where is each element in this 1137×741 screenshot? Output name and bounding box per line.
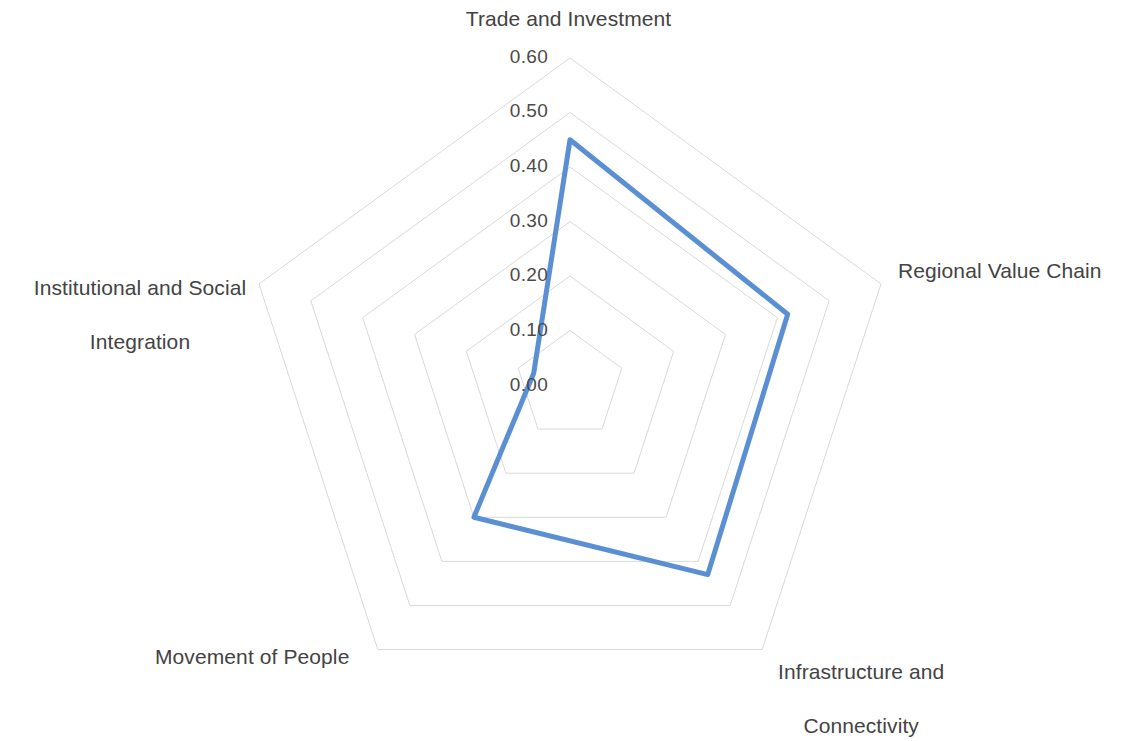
radial-tick-0-10: 0.10 <box>458 319 548 341</box>
radial-tick-0-50: 0.50 <box>458 100 548 122</box>
axis-label-institutional-and-social-integration: Institutional and Social Integration <box>0 248 280 382</box>
radial-tick-0-00: 0.00 <box>458 374 548 396</box>
axis-label-institutional-line2: Integration <box>0 329 280 356</box>
radial-tick-0-20: 0.20 <box>458 264 548 286</box>
radial-tick-0-30: 0.30 <box>458 210 548 232</box>
grid-ring-0-40 <box>363 167 778 561</box>
axis-label-movement-of-people: Movement of People <box>155 644 349 671</box>
axis-label-infrastructure-line2: Connectivity <box>778 713 944 740</box>
axis-label-regional-value-chain: Regional Value Chain <box>898 258 1102 285</box>
axis-label-trade-and-investment: Trade and Investment <box>0 6 1137 33</box>
radial-tick-0-40: 0.40 <box>458 155 548 177</box>
radial-tick-0-60: 0.60 <box>458 46 548 68</box>
axis-label-institutional-line1: Institutional and Social <box>0 275 280 302</box>
data-series-group <box>474 140 788 575</box>
series-polygon-0 <box>474 140 788 575</box>
axis-label-infrastructure-line1: Infrastructure and <box>778 659 944 686</box>
axis-label-infrastructure-and-connectivity: Infrastructure and Connectivity <box>778 632 944 741</box>
grid-ring-0-50 <box>311 113 829 606</box>
